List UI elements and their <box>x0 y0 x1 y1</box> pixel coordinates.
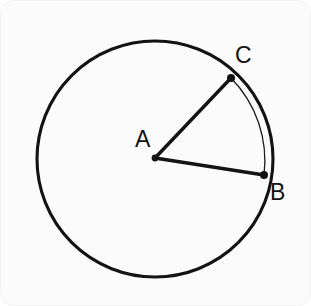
vertex-dot-a <box>152 155 159 162</box>
figure-card: A C B <box>0 0 311 306</box>
vertex-dot-b <box>260 171 268 179</box>
radius-segment-ac <box>155 78 231 158</box>
vertex-label-b: B <box>270 179 285 205</box>
radius-segment-ab <box>155 158 264 175</box>
arc-cb <box>231 78 265 175</box>
circle-diagram: A C B <box>0 0 311 306</box>
vertex-label-a: A <box>135 126 151 152</box>
vertex-label-c: C <box>235 42 252 68</box>
vertex-dot-c <box>227 74 235 82</box>
